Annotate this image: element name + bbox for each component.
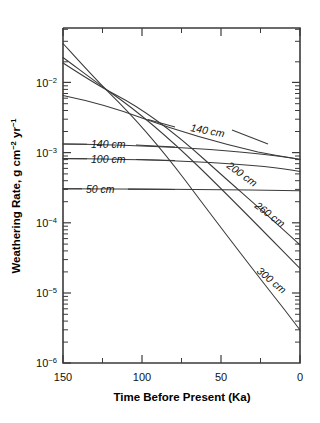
chart-figure: 10−2 10−3 10−4 10−5 10−6 150 100 50 0 Ti… (0, 0, 320, 423)
x-tick-label-0: 0 (297, 371, 303, 383)
x-tick-label-100: 100 (133, 371, 151, 383)
curve-label-100cm: 100 cm (91, 153, 126, 165)
x-axis-title: Time Before Present (Ka) (113, 391, 250, 403)
curve-label-140cm-left: 140 cm (91, 138, 126, 150)
x-tick-label-150: 150 (54, 371, 72, 383)
weathering-rate-chart: 10−2 10−3 10−4 10−5 10−6 150 100 50 0 Ti… (0, 0, 320, 423)
curve-label-50cm: 50 cm (86, 183, 115, 195)
x-tick-label-50: 50 (215, 371, 227, 383)
y-axis-title: Weathering Rate, g cm−2 yr−1 (9, 118, 22, 274)
